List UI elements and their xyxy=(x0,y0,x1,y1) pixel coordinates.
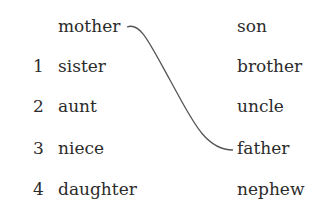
left-word: sister xyxy=(58,56,106,76)
item-number: 1 xyxy=(33,56,44,76)
left-word: aunt xyxy=(58,96,97,116)
left-word: mother xyxy=(58,16,120,36)
left-word: niece xyxy=(58,138,104,158)
right-word: brother xyxy=(237,56,302,76)
right-word: son xyxy=(237,16,267,36)
item-number: 4 xyxy=(33,179,44,199)
item-number: 2 xyxy=(33,96,44,116)
right-word: uncle xyxy=(237,96,284,116)
item-number: 3 xyxy=(33,138,44,158)
right-word: father xyxy=(237,138,289,158)
left-word: daughter xyxy=(58,179,137,199)
right-word: nephew xyxy=(237,179,304,199)
